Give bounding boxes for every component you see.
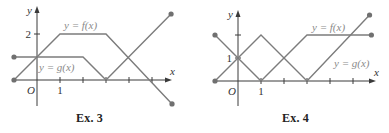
caption-ex4: Ex. 4 bbox=[282, 111, 309, 126]
curve-f bbox=[14, 34, 172, 104]
endpoint-dot-icon bbox=[212, 78, 217, 83]
y-tick-label: 2 bbox=[26, 28, 32, 40]
endpoint-dot-icon bbox=[168, 11, 173, 16]
x-axis-arrow-icon bbox=[165, 78, 172, 83]
series-label-g: y = g(x) bbox=[333, 57, 370, 70]
series-label-f: y = f(x) bbox=[63, 19, 97, 32]
x-axis-label: x bbox=[373, 66, 379, 78]
endpoint-dot-icon bbox=[11, 77, 16, 82]
endpoint-dot-icon bbox=[369, 32, 374, 37]
x-tick-label: 1 bbox=[57, 84, 63, 96]
y-axis-arrow-icon bbox=[35, 6, 40, 13]
endpoint-dot-icon bbox=[169, 101, 174, 106]
endpoint-dot-icon bbox=[212, 32, 217, 37]
y-axis-label: y bbox=[227, 8, 233, 20]
graph-panel-ex3: 12xyOy = f(x)y = g(x) Ex. 3 bbox=[0, 0, 195, 133]
endpoint-dot-icon bbox=[11, 54, 16, 59]
x-axis-label: x bbox=[169, 65, 175, 77]
caption-ex3: Ex. 3 bbox=[76, 111, 103, 126]
origin-label: O bbox=[27, 84, 35, 96]
y-tick-label: 1 bbox=[227, 52, 233, 64]
endpoint-dot-icon bbox=[367, 12, 372, 17]
graph-panel-ex4: 11xyOy = f(x)y = g(x) Ex. 4 bbox=[195, 0, 389, 133]
x-tick-label: 1 bbox=[258, 85, 264, 97]
x-axis-arrow-icon bbox=[369, 79, 376, 84]
y-axis-label: y bbox=[26, 4, 32, 16]
origin-label: O bbox=[228, 85, 236, 97]
y-axis-arrow-icon bbox=[236, 10, 241, 17]
series-label-g: y = g(x) bbox=[38, 61, 75, 74]
series-label-f: y = f(x) bbox=[311, 21, 345, 34]
